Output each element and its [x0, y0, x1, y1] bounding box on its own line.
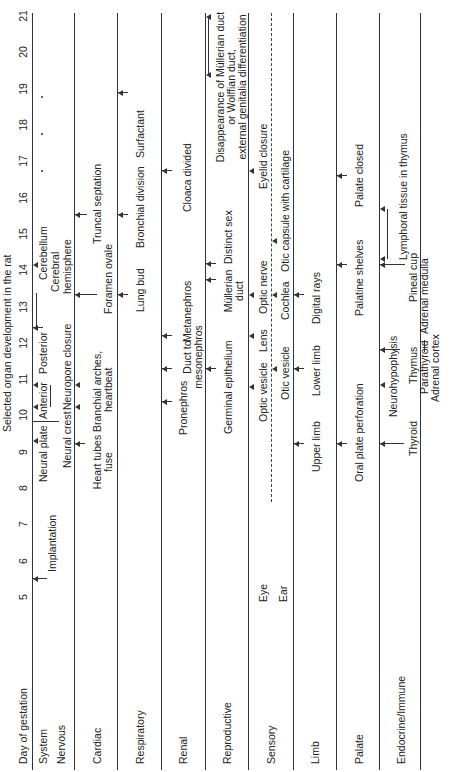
marker-line	[294, 368, 304, 369]
row-divider	[205, 13, 206, 770]
row-label-limb: Limb	[310, 741, 321, 764]
marker-line	[206, 263, 216, 264]
day-tick: 5	[18, 590, 29, 604]
continuation-dot	[41, 133, 43, 135]
event-adrenal-cortex: Adrenal cortex	[430, 334, 441, 402]
event-cochlea: Cochlea	[280, 281, 291, 320]
event-digital-rays: Digital rays	[311, 272, 322, 324]
day-tick: 17	[18, 154, 29, 168]
marker-line	[337, 264, 347, 265]
event-implantation: Implantation	[47, 515, 58, 572]
marker-line	[162, 335, 172, 336]
event-fuse: fuse	[103, 432, 114, 492]
arrow-icon	[206, 261, 211, 267]
event-lymphoral-tissue: Lymphoral tissue in thymus	[398, 133, 409, 260]
column-header-system: System	[38, 729, 49, 764]
arrow-icon	[272, 238, 277, 244]
row-divider	[117, 13, 118, 770]
arrow-icon	[272, 292, 277, 298]
marker-line	[380, 349, 400, 350]
arrow-icon	[162, 366, 167, 372]
continuation-dot	[41, 170, 43, 172]
event-surfactant: Surfactant	[135, 110, 146, 158]
event-palatine-shelves: Palatine shelves	[354, 240, 365, 316]
marker-line	[75, 443, 85, 444]
sub-label-ear: Ear	[278, 586, 289, 602]
arrow-icon	[294, 366, 299, 372]
event-cloaca-divided: Cloaca divided	[182, 143, 193, 212]
event-truncal-septation: Truncal septation	[92, 164, 103, 244]
row-divider	[379, 13, 380, 770]
marker-line	[294, 443, 304, 444]
row-label-respiratory: Respiratory	[135, 710, 146, 764]
event-bronchial-division: Bronchial division	[135, 166, 146, 248]
bracket	[50, 385, 51, 407]
marker-line	[294, 294, 304, 295]
marker-line	[33, 421, 59, 422]
day-tick: 18	[18, 118, 29, 132]
arrow-icon	[75, 212, 80, 218]
arrow-icon	[33, 382, 38, 388]
row-divider	[293, 13, 294, 770]
day-tick: 11	[18, 372, 29, 386]
arrow-icon	[118, 212, 123, 218]
marker-line	[206, 279, 216, 280]
row-label-palate: Palate	[354, 734, 365, 764]
event-heartbeat: heartbeat	[103, 368, 114, 412]
event-lung-bud: Lung bud	[135, 268, 146, 312]
day-tick: 14	[18, 263, 29, 277]
arrow-icon	[75, 404, 80, 410]
arrow-icon	[162, 168, 167, 174]
marker-line	[162, 401, 172, 402]
arrow-icon	[337, 262, 342, 268]
event-foramen-ovale: Foramen ovale	[103, 244, 114, 314]
event-thyroid: Thyroid	[408, 421, 419, 456]
arrow-icon	[380, 256, 385, 262]
day-tick: 12	[18, 336, 29, 350]
day-tick: 16	[18, 191, 29, 205]
arrow-icon	[380, 441, 385, 447]
arrow-icon	[75, 382, 80, 388]
arrow-icon	[380, 262, 385, 268]
marker-line	[75, 214, 87, 215]
marker-line	[337, 443, 347, 444]
arrow-icon	[33, 576, 38, 582]
event-upper-limb: Upper limb	[311, 421, 322, 472]
arrow-icon	[206, 366, 211, 372]
event-neural-plate: Neural plate	[38, 425, 49, 482]
arrow-icon	[75, 292, 80, 298]
event-palate-closed: Palate closed	[354, 144, 365, 207]
event-neuropore-closure: Neuropore closure	[62, 324, 73, 410]
event-optic-vesicle: Optic vesicle	[258, 362, 269, 422]
row-label-reproductive: Reproductive	[222, 702, 233, 764]
day-tick: 6	[18, 554, 29, 568]
arrow-icon	[380, 347, 385, 353]
row-label-nervous: Nervous	[56, 725, 67, 764]
event-lower-limb: Lower limb	[311, 345, 322, 396]
axis-label: Day of gestation	[18, 688, 29, 764]
marker-line	[118, 294, 128, 295]
event-duct: duct	[234, 266, 245, 316]
arrow-icon	[249, 333, 254, 339]
marker-line	[75, 294, 97, 295]
event-neural-crest: Neural crest	[62, 411, 73, 468]
row-label-cardiac: Cardiac	[92, 728, 103, 764]
connector	[424, 340, 425, 352]
marker-line	[118, 92, 128, 93]
bracket	[36, 293, 37, 328]
event-otic-capsule: Otic capsule with cartilage	[280, 150, 291, 272]
organ-development-diagram: Selected organ development in the rat Da…	[0, 0, 453, 772]
row-divider	[248, 13, 249, 770]
event-eyelid-closure: Eyelid closure	[258, 124, 269, 189]
row-divider	[74, 13, 75, 770]
marker-line	[380, 443, 404, 444]
event-lens: Lens	[258, 329, 269, 352]
event-cerebral: Cerebral	[50, 252, 61, 292]
arrow-icon	[249, 292, 254, 298]
arrow-icon	[162, 333, 167, 339]
day-tick: 9	[18, 445, 29, 459]
marker-line	[33, 327, 43, 328]
bracket	[387, 209, 388, 259]
arrow-icon	[118, 292, 123, 298]
arrow-icon	[337, 173, 342, 179]
